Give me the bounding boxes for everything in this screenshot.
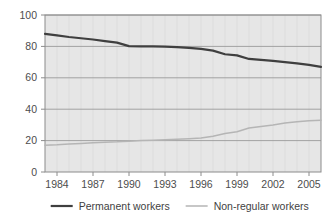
y-tick-label: 80 — [25, 40, 37, 52]
chart-figure: 0204060801001984198719901993199619992002… — [0, 0, 332, 220]
x-axis: 19841987199019931996199920022005 — [45, 172, 321, 190]
legend-item: Permanent workers — [51, 200, 170, 212]
y-tick-label: 20 — [25, 134, 37, 146]
x-tick-label: 2005 — [297, 178, 321, 190]
x-tick-label: 1993 — [153, 178, 177, 190]
x-tick-label: 2002 — [261, 178, 285, 190]
y-tick-label: 60 — [25, 71, 37, 83]
x-tick-label: 1984 — [45, 178, 69, 190]
line-chart: 0204060801001984198719901993199619992002… — [4, 3, 328, 215]
y-tick-label: 40 — [25, 103, 37, 115]
chart-canvas: 0204060801001984198719901993199619992002… — [4, 3, 328, 215]
y-tick-label: 0 — [31, 166, 37, 178]
y-tick-label: 100 — [19, 9, 37, 21]
x-tick-label: 1999 — [225, 178, 249, 190]
y-axis: 020406080100 — [19, 9, 45, 178]
legend: Permanent workersNon-regular workers — [51, 200, 309, 212]
legend-label: Non-regular workers — [214, 200, 309, 212]
x-tick-label: 1996 — [189, 178, 213, 190]
x-tick-label: 1990 — [117, 178, 141, 190]
legend-item: Non-regular workers — [186, 200, 309, 212]
legend-label: Permanent workers — [79, 200, 170, 212]
x-tick-label: 1987 — [81, 178, 105, 190]
